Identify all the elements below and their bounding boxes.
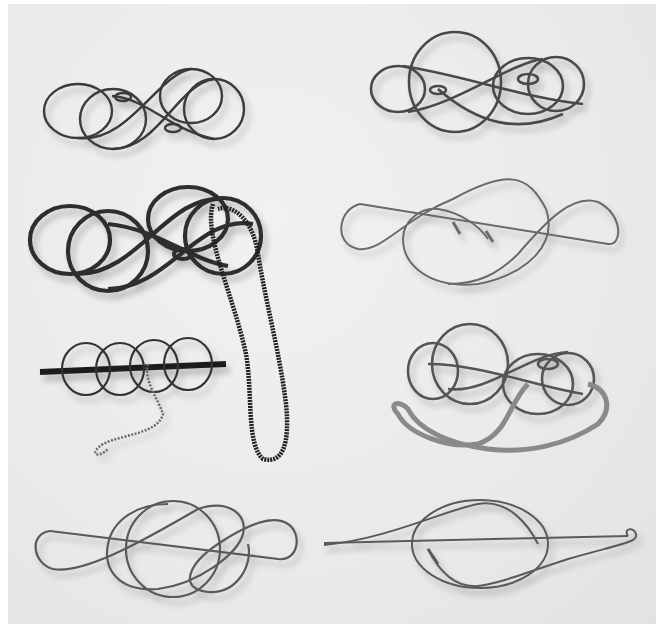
puzzle-8: [324, 500, 636, 588]
photograph: [8, 4, 656, 624]
wire-puzzles-illustration: [8, 4, 656, 624]
puzzle-7: [36, 501, 297, 597]
puzzle-2: [371, 32, 584, 132]
puzzle-6-gray-cord: [394, 384, 607, 450]
puzzle-1: [44, 69, 244, 149]
puzzle-5: [40, 338, 226, 454]
puzzle-3: [30, 187, 261, 291]
puzzle-4: [341, 179, 618, 284]
puzzle-3-black-cord: [211, 204, 287, 460]
puzzle-6: [408, 324, 594, 414]
